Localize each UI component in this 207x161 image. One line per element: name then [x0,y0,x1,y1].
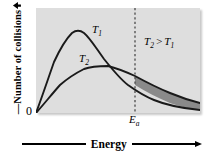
x-axis-label: Energy [86,138,132,150]
maxwell-boltzmann-distribution-figure: —Number of collisions T1 T2 T2>T1 0 Ea [0,0,207,161]
x-axis-rule-right [132,143,196,145]
y-axis-arrow-icon [12,2,23,9]
plot-svg: T1 T2 T2>T1 [36,8,200,113]
x-axis-label-row: Energy [22,136,202,152]
curve-label-t1: T1 [92,23,102,38]
x-axis-arrow-icon [195,141,202,147]
y-axis-label-text: Number of collisions [12,10,23,104]
y-axis-lead-dash: — [12,104,23,115]
curve-label-t2: T2 [79,52,89,67]
plot-area: T1 T2 T2>T1 [36,8,200,113]
temperature-comparison-annotation: T2>T1 [144,35,174,50]
x-axis-rule-left [22,143,86,145]
origin-label: 0 [26,104,32,119]
activation-energy-label: Ea [129,113,139,128]
y-axis-label: —Number of collisions [12,0,24,122]
